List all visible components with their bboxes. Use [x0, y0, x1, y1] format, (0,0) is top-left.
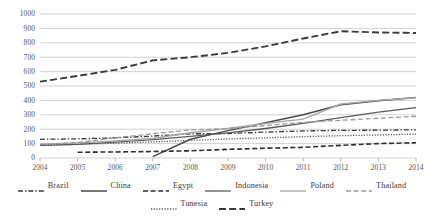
x-axis-tick-label: 2006: [98, 163, 132, 172]
legend-item-egypt[interactable]: Egypt: [143, 181, 193, 190]
legend-swatch-icon: [346, 181, 372, 189]
series-line-turkey: [40, 31, 416, 81]
legend-label: Tunesia: [181, 199, 208, 208]
x-axis-tick-label: 2008: [173, 163, 207, 172]
x-axis-ticks: [40, 158, 416, 162]
legend-swatch-icon: [219, 199, 245, 207]
legend-swatch-icon: [81, 181, 107, 189]
legend-swatch-icon: [205, 181, 231, 189]
y-axis-tick-label: 400: [0, 96, 35, 105]
legend-label: China: [111, 181, 131, 190]
y-axis-tick-label: 100: [0, 139, 35, 148]
x-axis-tick-label: 2004: [23, 163, 57, 172]
line-chart: 0100200300400500600700800900100020042005…: [0, 0, 424, 220]
y-axis-tick-label: 200: [0, 125, 35, 134]
x-axis-tick-label: 2011: [286, 163, 320, 172]
legend-label: Thailand: [376, 181, 406, 190]
legend-row: BrazilChinaEgyptIndonesiaPolandThailand: [0, 176, 424, 194]
legend-swatch-icon: [18, 181, 44, 189]
legend-label: Egypt: [173, 181, 193, 190]
gridlines: [40, 14, 416, 158]
y-axis-tick-label: 0: [0, 153, 35, 162]
y-axis-tick-label: 600: [0, 67, 35, 76]
legend-item-brazil[interactable]: Brazil: [18, 181, 69, 190]
x-axis-tick-label: 2014: [399, 163, 424, 172]
legend-label: Brazil: [48, 181, 69, 190]
y-axis-tick-label: 800: [0, 38, 35, 47]
x-axis-tick-label: 2005: [61, 163, 95, 172]
series-line-poland: [40, 98, 416, 145]
x-axis-tick-label: 2009: [211, 163, 245, 172]
series-group: [40, 31, 416, 156]
legend-swatch-icon: [280, 181, 306, 189]
legend-row: TunesiaTurkey: [0, 194, 424, 212]
y-axis-tick-label: 500: [0, 81, 35, 90]
x-axis-tick-label: 2007: [136, 163, 170, 172]
y-axis-tick-label: 900: [0, 24, 35, 33]
legend-label: Poland: [310, 181, 334, 190]
legend-item-indonesia[interactable]: Indonesia: [205, 181, 268, 190]
chart-legend: BrazilChinaEgyptIndonesiaPolandThailandT…: [0, 176, 424, 212]
x-axis-tick-label: 2012: [324, 163, 358, 172]
y-axis-tick-label: 700: [0, 53, 35, 62]
legend-item-thailand[interactable]: Thailand: [346, 181, 406, 190]
legend-item-tunesia[interactable]: Tunesia: [151, 199, 208, 208]
legend-item-china[interactable]: China: [81, 181, 131, 190]
legend-item-turkey[interactable]: Turkey: [219, 199, 273, 208]
series-line-egypt: [78, 143, 416, 153]
x-axis-tick-label: 2013: [361, 163, 395, 172]
y-axis-tick-label: 300: [0, 110, 35, 119]
legend-label: Turkey: [249, 199, 273, 208]
legend-swatch-icon: [143, 181, 169, 189]
x-axis-tick-label: 2010: [249, 163, 283, 172]
legend-swatch-icon: [151, 199, 177, 207]
y-axis-tick-label: 1000: [0, 9, 35, 18]
legend-item-poland[interactable]: Poland: [280, 181, 334, 190]
legend-label: Indonesia: [235, 181, 268, 190]
